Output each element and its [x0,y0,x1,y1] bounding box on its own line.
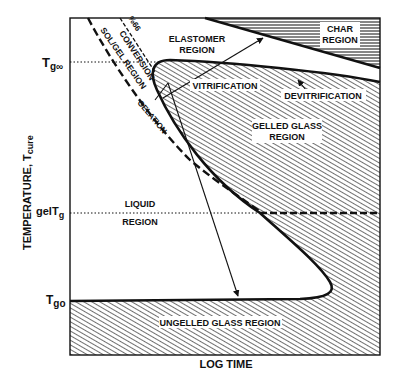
svg-text:REGION: REGION [269,132,305,142]
svg-text:ELASTOMER: ELASTOMER [169,34,226,44]
label-gelled-glass-region: GELLED GLASS REGION [252,119,322,143]
svg-text:REGION: REGION [322,35,358,45]
svg-text:REGION: REGION [179,45,215,55]
ttt-diagram: CHAR REGION ELASTOMER REGION VITRIFICATI… [0,0,399,370]
svg-text:99%: 99% [127,14,143,32]
svg-text:gelTg: gelTg [36,205,64,220]
svg-text:UNGELLED GLASS REGION: UNGELLED GLASS REGION [159,318,280,328]
svg-text:Tgo: Tgo [46,293,66,309]
svg-text:GELLED GLASS: GELLED GLASS [252,121,322,131]
y-axis-label: TEMPERATURE, Tcure [21,135,35,250]
svg-text:LIQUID: LIQUID [125,199,156,209]
svg-text:VITRIFICATION: VITRIFICATION [193,81,258,91]
label-devitrification: DEVITRIFICATION [281,89,366,101]
label-ungelled-glass-region: UNGELLED GLASS REGION [159,316,282,328]
svg-text:Tg∞: Tg∞ [42,55,63,72]
label-char-region: CHAR REGION [320,22,360,48]
svg-text:DEVITRIFICATION: DEVITRIFICATION [284,91,361,101]
x-axis-label: LOG TIME [199,358,252,370]
ytick-tg-inf: Tg∞ [42,55,63,72]
ytick-gel-tg: gelTg [36,205,64,220]
svg-text:REGION: REGION [122,217,158,227]
ungelled-glass-region [70,213,380,355]
ytick-tg0: Tgo [46,293,66,309]
svg-text:CHAR: CHAR [327,24,353,34]
label-vitrification: VITRIFICATION [190,79,260,91]
diagram-canvas: CHAR REGION ELASTOMER REGION VITRIFICATI… [0,0,399,370]
label-elastomer-region: ELASTOMER REGION [169,34,226,55]
